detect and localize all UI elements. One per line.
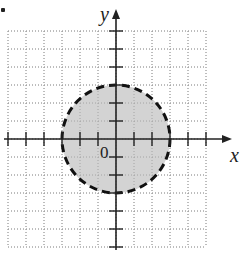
coordinate-graph <box>0 0 242 253</box>
y-axis-arrow-icon <box>112 9 120 19</box>
x-axis-arrow-icon <box>222 135 232 143</box>
origin-label: 0 <box>100 144 109 161</box>
x-axis-label: x <box>230 145 239 165</box>
y-axis-label: y <box>100 4 109 24</box>
